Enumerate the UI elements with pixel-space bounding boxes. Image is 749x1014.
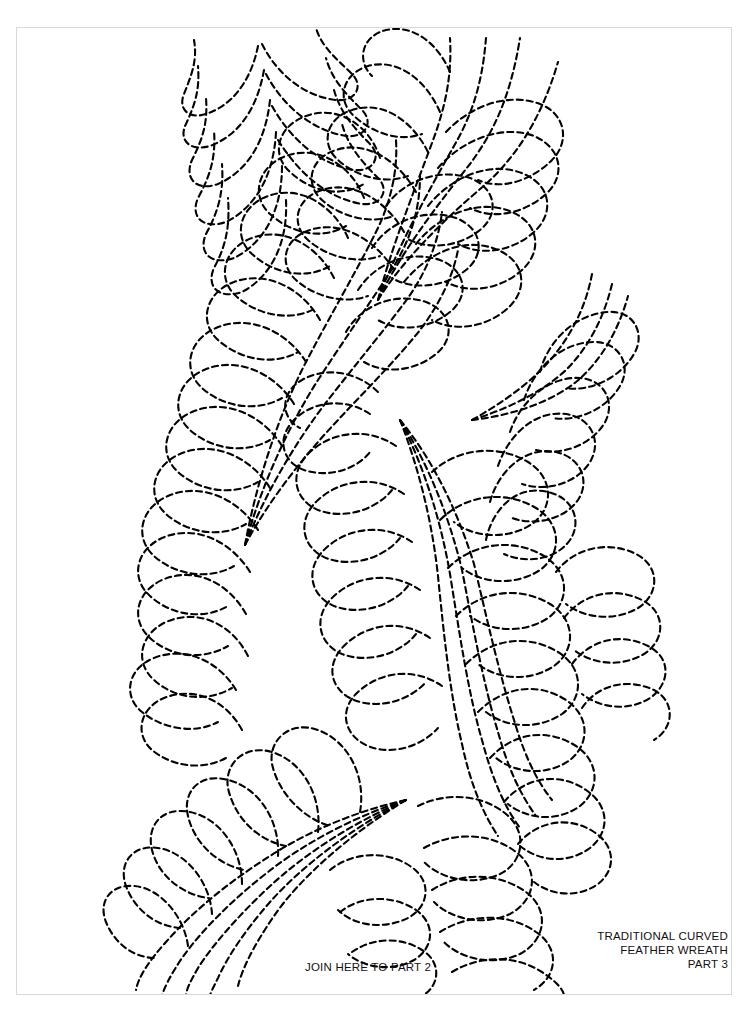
title-line-2: FEATHER WREATH — [597, 943, 728, 957]
plume-inner-swirl — [283, 372, 378, 473]
title-line-1: TRADITIONAL CURVED — [597, 929, 728, 943]
plume-top-left — [182, 40, 286, 294]
join-here-note: JOIN HERE TO PART 2 — [305, 960, 431, 974]
plume-top-right — [286, 29, 563, 327]
feather-pattern-area — [17, 28, 731, 994]
pattern-page: TRADITIONAL CURVED FEATHER WREATH PART 3… — [0, 0, 749, 1014]
plume-left-upper-extra — [130, 654, 242, 766]
plume-top-left-right-side — [262, 28, 384, 204]
feather-pattern-drawing — [17, 28, 731, 994]
plume-central-right-spine — [400, 420, 552, 836]
plume-central-right-lobes — [432, 451, 611, 894]
plume-right-lower-cascade — [556, 547, 670, 740]
title-line-3: PART 3 — [597, 957, 728, 971]
title-block: TRADITIONAL CURVED FEATHER WREATH PART 3 — [597, 929, 728, 971]
